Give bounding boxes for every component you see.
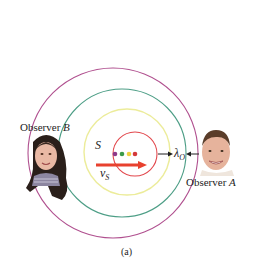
- observer-b-letter: B: [63, 121, 70, 133]
- observer-a-label: Observer A: [186, 176, 236, 188]
- wavelength-label: λO: [174, 146, 185, 161]
- source-dot-3: [127, 152, 132, 157]
- source-label: S: [95, 138, 101, 153]
- source-dot-4: [133, 152, 138, 157]
- observer-b-prefix: Observer: [20, 121, 63, 133]
- source-dot-2: [120, 152, 125, 157]
- observer-a-prefix: Observer: [186, 176, 229, 188]
- velocity-label: vS: [100, 166, 109, 181]
- source-positions: [113, 152, 138, 157]
- figure-caption: (a): [121, 246, 132, 257]
- observer-b-label: Observer B: [20, 121, 70, 133]
- velocity-subscript: S: [105, 173, 109, 182]
- doppler-diagram: Observer B Observer A S vS λO (a): [0, 0, 256, 269]
- source-dot-1: [113, 152, 118, 157]
- wavelength-subscript: O: [179, 153, 185, 162]
- observer-a-letter: A: [229, 176, 236, 188]
- observer-a-portrait: [200, 130, 234, 176]
- diagram-canvas: [0, 0, 256, 269]
- observer-b-portrait: [26, 135, 67, 200]
